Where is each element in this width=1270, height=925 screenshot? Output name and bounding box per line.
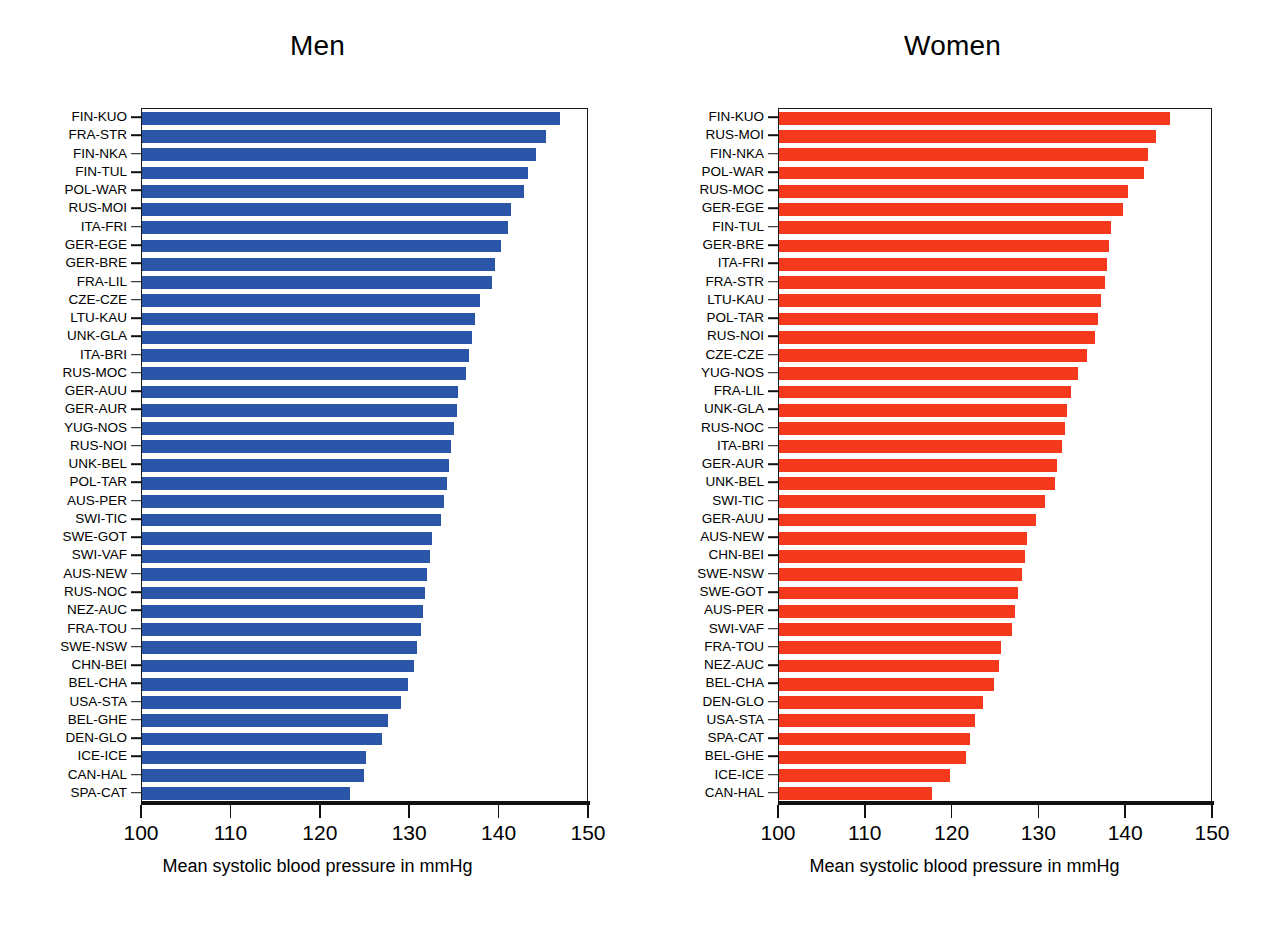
bar-row xyxy=(779,148,1211,161)
bar-swe-got xyxy=(779,587,1018,600)
bar-row xyxy=(779,660,1211,673)
bar-aus-new xyxy=(779,532,1027,545)
bar-fra-str xyxy=(142,130,546,143)
bar-row xyxy=(779,678,1211,691)
bar-den-glo xyxy=(779,696,983,709)
category-label: SWE-NSW xyxy=(697,567,764,581)
x-tick-mark xyxy=(1124,805,1126,818)
bar-row xyxy=(779,751,1211,764)
bar-row xyxy=(779,422,1211,435)
bar-usa-sta xyxy=(142,696,401,709)
bar-row xyxy=(142,367,587,380)
bar-swe-got xyxy=(142,532,432,545)
bar-row xyxy=(142,240,587,253)
category-label: FIN-TUL xyxy=(712,220,764,234)
x-tick-label: 100 xyxy=(123,821,158,845)
bar-yug-nos xyxy=(142,422,454,435)
bar-row xyxy=(142,185,587,198)
bar-row xyxy=(779,605,1211,618)
bar-bel-ghe xyxy=(779,751,966,764)
panel-men: Men FIN-KUOFRA-STRFIN-NKAFIN-TULPOL-WARR… xyxy=(0,0,635,925)
bar-row xyxy=(142,623,587,636)
category-label: DEN-GLO xyxy=(702,695,764,709)
x-tick-label: 120 xyxy=(302,821,337,845)
category-label: UNK-BEL xyxy=(68,457,127,471)
bar-unk-gla xyxy=(779,404,1067,417)
bar-ger-ege xyxy=(142,240,501,253)
category-tick xyxy=(768,664,778,666)
category-label: FIN-TUL xyxy=(75,165,127,179)
category-label: ITA-BRI xyxy=(80,348,127,362)
category-label: FIN-KUO xyxy=(709,110,765,124)
category-label: ICE-ICE xyxy=(714,768,764,782)
bar-row xyxy=(779,294,1211,307)
category-tick xyxy=(131,591,141,593)
category-tick xyxy=(131,536,141,538)
bar-row xyxy=(142,404,587,417)
category-label: POL-WAR xyxy=(701,165,764,179)
category-label: USA-STA xyxy=(69,695,127,709)
bar-pol-war xyxy=(142,185,524,198)
bar-row xyxy=(779,623,1211,636)
x-tick-label: 140 xyxy=(1108,821,1143,845)
category-tick xyxy=(768,390,778,392)
bar-fra-tou xyxy=(779,641,1001,654)
category-label: YUG-NOS xyxy=(64,421,127,435)
category-label: POL-TAR xyxy=(706,311,764,325)
category-tick xyxy=(768,500,778,502)
category-label: GER-BRE xyxy=(65,256,127,270)
category-tick xyxy=(131,463,141,465)
category-label: RUS-MOI xyxy=(69,202,128,216)
category-label: GER-EGE xyxy=(702,202,764,216)
x-tick-label: 120 xyxy=(934,821,969,845)
bar-aus-per xyxy=(142,495,444,508)
bar-aus-per xyxy=(779,605,1015,618)
x-tick-label: 150 xyxy=(570,821,605,845)
category-label: LTU-KAU xyxy=(707,293,764,307)
category-tick xyxy=(768,646,778,648)
category-tick xyxy=(768,463,778,465)
bar-row xyxy=(142,130,587,143)
bar-row xyxy=(142,386,587,399)
bar-fra-lil xyxy=(142,276,492,289)
bar-rus-moc xyxy=(779,185,1128,198)
bar-row xyxy=(779,185,1211,198)
category-label: FRA-TOU xyxy=(704,640,764,654)
bar-row xyxy=(779,349,1211,362)
bar-row xyxy=(779,367,1211,380)
bar-row xyxy=(779,532,1211,545)
bar-row xyxy=(142,276,587,289)
bar-swe-nsw xyxy=(779,568,1022,581)
x-axis-title-men: Mean systolic blood pressure in mmHg xyxy=(0,856,635,877)
category-label: RUS-NOI xyxy=(707,330,764,344)
category-tick xyxy=(131,153,141,155)
x-tick-mark xyxy=(587,805,589,818)
category-tick xyxy=(131,573,141,575)
x-axis-title-women: Mean systolic blood pressure in mmHg xyxy=(647,856,1270,877)
category-tick xyxy=(768,756,778,758)
category-label: GER-EGE xyxy=(65,238,127,252)
category-label: BEL-CHA xyxy=(68,677,127,691)
bar-ita-fri xyxy=(779,258,1107,271)
x-tick-label: 140 xyxy=(481,821,516,845)
category-tick xyxy=(131,299,141,301)
category-tick xyxy=(768,116,778,118)
category-label: BEL-GHE xyxy=(68,713,127,727)
category-tick xyxy=(131,208,141,210)
bar-can-hal xyxy=(779,787,932,800)
bar-row xyxy=(779,568,1211,581)
category-label: RUS-NOC xyxy=(701,421,764,435)
bar-nez-auc xyxy=(142,605,423,618)
category-tick xyxy=(768,555,778,557)
bar-ice-ice xyxy=(779,769,950,782)
category-label: USA-STA xyxy=(706,713,764,727)
category-tick xyxy=(131,409,141,411)
bar-row xyxy=(779,495,1211,508)
category-tick xyxy=(131,390,141,392)
bar-rus-noi xyxy=(779,331,1095,344)
bar-row xyxy=(779,240,1211,253)
bar-row xyxy=(142,422,587,435)
category-tick xyxy=(768,774,778,776)
category-tick xyxy=(131,427,141,429)
category-label: ITA-BRI xyxy=(717,439,764,453)
